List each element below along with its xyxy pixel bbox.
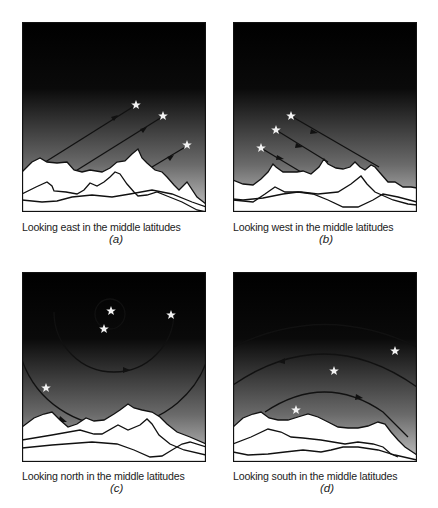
sublabel-a: (a) [109,233,123,245]
east-sky-diagram [22,22,206,212]
south-sky-diagram [233,272,417,462]
sublabel-d: (d) [320,482,334,494]
sublabel-b: (b) [319,233,333,245]
north-sky-diagram [22,272,206,462]
caption-west: Looking west in the middle latitudes [233,221,393,233]
panel-east [22,22,206,212]
sublabel-c: (c) [110,482,123,494]
panel-west [233,22,417,212]
caption-south: Looking south in the middle latitudes [233,470,397,482]
caption-north: Looking north in the middle latitudes [22,470,185,482]
panel-north [22,272,206,462]
caption-east: Looking east in the middle latitudes [22,221,181,233]
panel-south [233,272,417,462]
west-sky-diagram [233,22,417,212]
